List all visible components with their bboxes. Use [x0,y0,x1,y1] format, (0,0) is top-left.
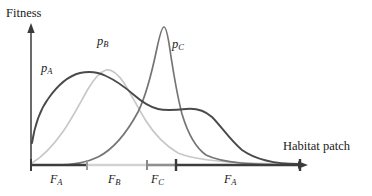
chart-canvas [0,0,372,196]
x-segment-label-fa-right: FA [224,172,237,187]
y-axis-title: Fitness [6,6,41,21]
y-axis-arrow [27,23,34,33]
curve-layer [32,27,299,165]
axis-layer [27,23,308,171]
curve-label-p-c-sub: C [178,42,184,52]
fitness-habitat-patch-figure: Fitness Habitat patch pA pB pC FA FB FC … [0,0,372,196]
curve-label-p-c: pC [172,37,184,52]
x-segment-label-fa-left: FA [50,172,63,187]
curve-label-p-a: pA [41,61,52,76]
x-segment-label-fc-sub: C [158,177,164,187]
x-segment-label-fb: FB [108,172,121,187]
x-segment-label-fa-left-sub: A [57,177,62,187]
curve-p-b [32,70,299,164]
curve-label-p-b: pB [97,34,108,49]
x-segment-label-fb-sub: B [115,177,120,187]
x-segment-label-fc: FC [151,172,164,187]
x-axis-title: Habitat patch [283,139,350,154]
x-segment-label-fa-right-sub: A [231,177,236,187]
curve-label-p-a-sub: A [47,66,52,76]
curve-label-p-b-sub: B [103,39,108,49]
